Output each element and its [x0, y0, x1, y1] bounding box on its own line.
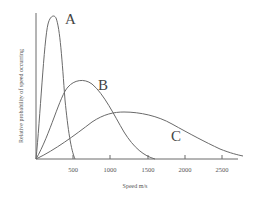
curve-b-label: B	[98, 77, 108, 93]
x-tick-label-1000: 1000	[104, 166, 117, 173]
x-tick-label-1500: 1500	[142, 166, 155, 173]
x-tick-label-500: 500	[68, 166, 78, 173]
x-tick-label-2500: 2500	[216, 166, 229, 173]
x-tick-label-2000: 2000	[179, 166, 192, 173]
speed-distribution-chart: 500 1000 1500 2000 2500 Speed m/s Relati…	[0, 0, 258, 199]
curve-c-label: C	[171, 128, 181, 144]
curve-a-label: A	[65, 11, 76, 27]
x-axis-title: Speed m/s	[123, 183, 148, 189]
y-axis-title: Relative probability of speed occurring	[18, 49, 24, 143]
curve-a	[36, 16, 75, 159]
